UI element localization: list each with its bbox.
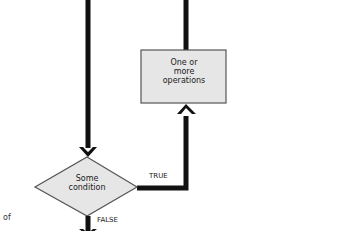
decision-label: Some condition <box>52 174 122 192</box>
arrow-up-icon <box>177 104 196 114</box>
decision-label-line-2: condition <box>52 183 122 192</box>
process-label: One or more operations <box>141 58 227 86</box>
decision-label-line-1: Some <box>52 174 122 183</box>
true-edge-label: TRUE <box>149 172 168 180</box>
connector-false-path <box>79 216 97 231</box>
process-label-line-3: operations <box>141 76 227 85</box>
flowchart-canvas <box>0 0 340 231</box>
connector-into-decision <box>79 0 97 157</box>
arrow-down-icon <box>79 147 97 157</box>
process-label-line-2: more <box>141 67 227 76</box>
false-edge-label: FALSE <box>97 216 118 224</box>
side-text-fragment: of <box>3 213 11 222</box>
process-label-line-1: One or <box>141 58 227 67</box>
